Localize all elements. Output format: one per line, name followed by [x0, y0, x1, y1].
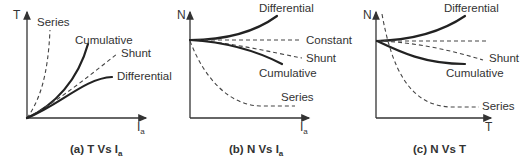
label-series: Series	[37, 16, 70, 28]
x-axis-label: Ia	[300, 120, 308, 136]
label-series: Series	[281, 91, 314, 103]
label-cumulative: Cumulative	[446, 67, 504, 79]
curve-cumulative	[377, 41, 465, 64]
caption-c: (c) N Vs T	[413, 143, 466, 155]
y-axis-label: N	[177, 8, 186, 22]
label-shunt: Shunt	[306, 52, 337, 64]
y-axis-label: T	[13, 8, 21, 22]
y-axis-label: N	[363, 8, 372, 22]
curve-cumulative	[27, 44, 88, 118]
panel-c-speed-vs-torque: N T Differential Shunt Cumulative Series…	[363, 2, 520, 155]
x-axis-label: Ia	[137, 120, 145, 136]
label-differential: Differential	[444, 2, 499, 14]
curve-series	[27, 30, 50, 118]
curve-cumulative	[190, 40, 282, 64]
label-differential: Differential	[259, 2, 314, 14]
label-differential: Differential	[117, 70, 172, 82]
label-cumulative: Cumulative	[75, 34, 133, 46]
caption-a: (a) T Vs Ia	[70, 143, 123, 158]
label-shunt: Shunt	[489, 52, 520, 64]
x-axis-label: T	[485, 120, 493, 134]
curve-differential	[377, 16, 465, 41]
label-constant: Constant	[306, 34, 353, 46]
label-series: Series	[482, 100, 515, 112]
panel-a-torque-vs-armature-current: T Ia Series Cumulative Shunt Differentia…	[13, 8, 172, 158]
label-cumulative: Cumulative	[259, 67, 317, 79]
curve-shunt	[27, 54, 117, 118]
curve-differential	[190, 16, 277, 40]
caption-b: (b) N Vs Ia	[229, 143, 284, 158]
label-shunt: Shunt	[121, 47, 152, 59]
panel-b-speed-vs-armature-current: N Ia Differential Constant Shunt Cumulat…	[177, 2, 353, 158]
dc-motor-characteristics-figure: T Ia Series Cumulative Shunt Differentia…	[0, 0, 531, 164]
